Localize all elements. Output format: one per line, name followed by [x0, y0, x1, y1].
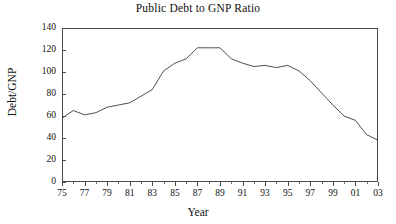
x-tick-minor — [299, 182, 300, 184]
x-tick-mark — [265, 182, 266, 186]
y-tick-label: 100 — [22, 67, 56, 77]
y-tick-label: 40 — [22, 133, 56, 143]
x-tick-minor — [96, 182, 97, 184]
x-tick-minor — [254, 182, 255, 184]
y-tick-mark — [62, 94, 66, 95]
x-tick-minor — [322, 182, 323, 184]
x-tick-mark — [175, 182, 176, 186]
x-tick-minor — [344, 182, 345, 184]
x-tick-label: 93 — [255, 188, 275, 198]
x-tick-minor — [164, 182, 165, 184]
x-tick-label: 75 — [52, 188, 72, 198]
x-tick-mark — [378, 182, 379, 186]
x-tick-mark — [85, 182, 86, 186]
y-tick-label: 0 — [22, 177, 56, 187]
x-tick-minor — [209, 182, 210, 184]
x-tick-mark — [243, 182, 244, 186]
x-tick-label: 97 — [300, 188, 320, 198]
y-tick-mark — [62, 116, 66, 117]
x-tick-label: 91 — [233, 188, 253, 198]
x-tick-minor — [118, 182, 119, 184]
x-tick-minor — [141, 182, 142, 184]
x-tick-minor — [276, 182, 277, 184]
y-tick-mark — [62, 50, 66, 51]
x-tick-minor — [73, 182, 74, 184]
x-tick-label: 81 — [120, 188, 140, 198]
x-tick-mark — [130, 182, 131, 186]
x-tick-label: 79 — [97, 188, 117, 198]
x-tick-minor — [186, 182, 187, 184]
debt-gnp-line — [62, 48, 378, 140]
x-tick-label: 95 — [278, 188, 298, 198]
x-tick-label: 85 — [165, 188, 185, 198]
y-tick-label: 60 — [22, 111, 56, 121]
y-tick-label: 120 — [22, 45, 56, 55]
x-tick-mark — [355, 182, 356, 186]
y-tick-mark — [62, 138, 66, 139]
x-tick-mark — [220, 182, 221, 186]
x-tick-minor — [367, 182, 368, 184]
x-tick-mark — [333, 182, 334, 186]
y-tick-mark — [62, 72, 66, 73]
x-tick-minor — [231, 182, 232, 184]
x-tick-label: 01 — [345, 188, 365, 198]
x-tick-label: 99 — [323, 188, 343, 198]
x-tick-mark — [107, 182, 108, 186]
x-tick-label: 77 — [75, 188, 95, 198]
x-tick-mark — [288, 182, 289, 186]
y-tick-label: 20 — [22, 155, 56, 165]
y-axis-title: Debt/GNP — [6, 52, 18, 132]
x-tick-mark — [62, 182, 63, 186]
x-tick-mark — [152, 182, 153, 186]
x-axis-title: Year — [0, 206, 396, 218]
x-tick-label: 03 — [368, 188, 388, 198]
chart-figure: Public Debt to GNP Ratio Debt/GNP 020406… — [0, 0, 396, 224]
x-tick-mark — [197, 182, 198, 186]
chart-title: Public Debt to GNP Ratio — [0, 2, 396, 14]
y-tick-label: 140 — [22, 23, 56, 33]
y-tick-mark — [62, 28, 66, 29]
y-tick-mark — [62, 160, 66, 161]
x-tick-label: 87 — [187, 188, 207, 198]
plot-area — [62, 28, 378, 182]
x-tick-label: 83 — [142, 188, 162, 198]
x-tick-label: 89 — [210, 188, 230, 198]
x-tick-mark — [310, 182, 311, 186]
y-tick-label: 80 — [22, 89, 56, 99]
